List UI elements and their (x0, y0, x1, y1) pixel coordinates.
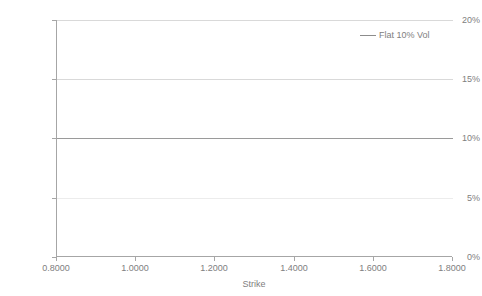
gridline-20 (57, 20, 453, 21)
x-tick-mark-1.0000 (135, 257, 136, 261)
x-axis-title: Strike (56, 279, 452, 290)
chart-legend: Flat 10% Vol (360, 29, 430, 41)
x-tick-label-1.2000: 1.2000 (184, 263, 244, 274)
y-axis-title: Implied Volatility (6, 0, 20, 28)
x-tick-mark-1.4000 (294, 257, 295, 261)
x-tick-mark-1.8000 (452, 257, 453, 261)
x-tick-mark-1.2000 (214, 257, 215, 261)
legend-line-swatch-icon (360, 35, 376, 36)
x-tick-label-1.4000: 1.4000 (264, 263, 324, 274)
plot-area (56, 20, 452, 257)
legend-entry-label: Flat 10% Vol (379, 30, 430, 41)
gridline-5 (57, 198, 453, 199)
x-tick-label-1.0000: 1.0000 (105, 263, 165, 274)
x-tick-mark-0.8000 (56, 257, 57, 261)
x-tick-label-0.8000: 0.8000 (26, 263, 86, 274)
x-tick-label-1.6000: 1.6000 (343, 263, 403, 274)
series-line-flat-10-vol (57, 138, 453, 139)
x-tick-label-1.8000: 1.8000 (422, 263, 482, 274)
gridline-15 (57, 79, 453, 80)
x-tick-mark-1.6000 (373, 257, 374, 261)
